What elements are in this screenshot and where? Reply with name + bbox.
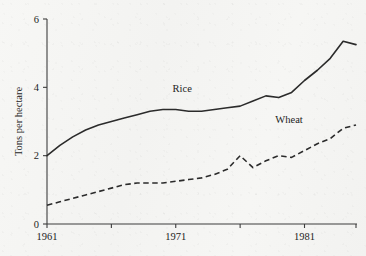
y-tick-label: 0 xyxy=(34,219,39,230)
x-tick-label: 1981 xyxy=(294,231,315,242)
wheat-yield-line xyxy=(47,125,356,205)
y-axis-ticks: 0246 xyxy=(34,14,47,230)
yield-line-chart: 0246 Tons per hectare 196119711981 Rice … xyxy=(0,0,366,256)
series-annotations: Rice Wheat xyxy=(173,83,303,125)
y-axis-title: Tons per hectare xyxy=(13,87,24,157)
wheat-series-label: Wheat xyxy=(275,114,302,125)
x-tick-label: 1971 xyxy=(165,231,186,242)
y-tick-label: 2 xyxy=(34,150,39,161)
x-tick-label: 1961 xyxy=(37,231,58,242)
y-tick-label: 6 xyxy=(34,14,39,25)
y-axis-group: 0246 Tons per hectare xyxy=(13,14,47,230)
rice-yield-line xyxy=(47,41,356,155)
y-tick-label: 4 xyxy=(34,82,40,93)
x-axis-group: 196119711981 xyxy=(37,224,358,242)
plot-series-group xyxy=(47,41,356,205)
x-axis-ticks: 196119711981 xyxy=(37,224,357,242)
chart-canvas: 0246 Tons per hectare 196119711981 Rice … xyxy=(0,0,366,256)
rice-series-label: Rice xyxy=(173,83,193,94)
